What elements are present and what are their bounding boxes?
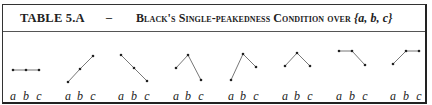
axis-label-a: a: [65, 89, 71, 103]
graph-up-then-plateau-bc: abc: [390, 50, 422, 103]
point-a: [12, 69, 15, 72]
axis-label-a: a: [118, 89, 124, 103]
point-a: [230, 79, 233, 82]
preference-graphs: abcabcabcabcabcabcabcabc: [0, 0, 432, 105]
preference-line: [339, 51, 365, 65]
point-b: [242, 53, 245, 56]
axis-label-c: c: [90, 89, 96, 103]
axis-label-b: b: [403, 89, 409, 103]
axis-label-c: c: [362, 89, 368, 103]
point-b: [405, 50, 408, 53]
axis-label-b: b: [131, 89, 137, 103]
point-c: [309, 65, 312, 68]
axis-label-a: a: [336, 89, 342, 103]
axis-label-b: b: [23, 89, 29, 103]
graph-peak-b-c-higher-than-a: abc: [228, 53, 259, 103]
preference-line: [176, 55, 201, 80]
axis-label-b: b: [185, 89, 191, 103]
point-c: [200, 79, 203, 82]
point-b: [351, 50, 354, 53]
preference-line: [393, 51, 419, 64]
point-c: [418, 50, 421, 53]
axis-label-c: c: [198, 89, 204, 103]
graph-increasing: abc: [65, 55, 96, 103]
graph-decreasing: abc: [118, 54, 150, 103]
axis-label-c: c: [36, 89, 42, 103]
axis-label-b: b: [240, 89, 246, 103]
graph-flat: abc: [10, 69, 42, 103]
axis-label-b: b: [77, 89, 83, 103]
axis-label-b: b: [294, 89, 300, 103]
point-a: [67, 81, 70, 84]
axis-label-c: c: [253, 89, 259, 103]
point-b: [187, 54, 190, 57]
graph-peak-b-symmetric: abc: [282, 52, 313, 103]
axis-label-b: b: [349, 89, 355, 103]
preference-line: [285, 53, 310, 66]
point-b: [25, 69, 28, 72]
axis-label-c: c: [144, 89, 150, 103]
axis-label-c: c: [416, 89, 422, 103]
point-c: [255, 66, 258, 69]
point-c: [146, 80, 149, 83]
preference-line: [231, 54, 256, 80]
point-c: [92, 55, 95, 58]
point-c: [364, 64, 367, 67]
axis-label-c: c: [307, 89, 313, 103]
axis-label-a: a: [282, 89, 288, 103]
point-b: [296, 52, 299, 55]
point-c: [38, 69, 41, 72]
point-b: [133, 67, 136, 70]
point-a: [175, 67, 178, 70]
point-a: [338, 50, 341, 53]
point-a: [392, 63, 395, 66]
axis-label-a: a: [173, 89, 179, 103]
point-a: [120, 54, 123, 57]
point-a: [284, 65, 287, 68]
point-b: [79, 68, 82, 71]
axis-label-a: a: [228, 89, 234, 103]
graph-plateau-ab-then-down: abc: [336, 50, 368, 103]
axis-label-a: a: [390, 89, 396, 103]
graph-peak-b-a-higher-than-c: abc: [173, 54, 204, 103]
axis-label-a: a: [10, 89, 16, 103]
